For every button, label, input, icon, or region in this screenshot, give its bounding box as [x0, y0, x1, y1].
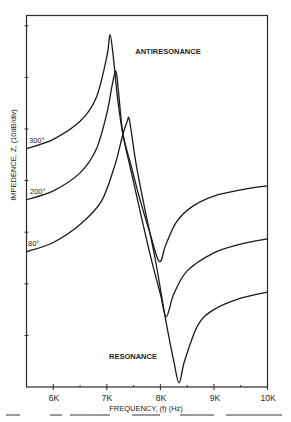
series-label-300: 300° [29, 136, 45, 145]
x-tick-label-8k: 8K [156, 393, 167, 403]
annotation-antiresonance: ANTIRESONANCE [135, 47, 200, 56]
series-line-300deg [27, 35, 268, 262]
series-lines [27, 35, 268, 383]
plot-frame [27, 16, 268, 388]
x-tick-label-10k: 10K [260, 393, 275, 403]
caption-fragment [132, 414, 160, 416]
annotation-resonance: RESONANCE [109, 352, 157, 361]
caption-fragment [180, 414, 214, 416]
x-tick-label-7k: 7K [102, 393, 113, 403]
x-axis-title: FREQUENCY, (f) (Hz) [109, 404, 183, 413]
series-label-200: 200° [30, 187, 46, 196]
caption-fragment [6, 414, 20, 416]
y-axis-title: IMPEDENCE, Z, (10dB/div) [9, 109, 18, 201]
series-line-80deg [27, 117, 268, 383]
caption-fragment [70, 414, 110, 416]
series-line-200deg [27, 71, 268, 317]
x-tick-label-9k: 9K [210, 393, 221, 403]
series-label-80: 80° [28, 239, 39, 248]
caption-fragment [226, 414, 282, 416]
x-tick-label-6k: 6K [49, 393, 60, 403]
caption-fragment [50, 414, 62, 416]
impedance-chart: 6K 7K 8K 9K 10K FREQUENCY, (f) (Hz) IMPE… [0, 0, 291, 422]
